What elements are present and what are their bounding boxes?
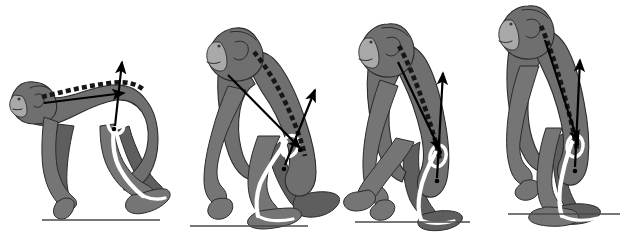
- panel-4-eye: [509, 22, 512, 25]
- panel-2-trunk-node: [298, 148, 302, 152]
- panel-3-trunk-node: [438, 150, 442, 154]
- panel-2-hip-joint-node: [282, 167, 287, 172]
- panel-1-hip-joint-node: [112, 127, 117, 132]
- panel-1-eye: [18, 98, 21, 101]
- panel-4-foot: [529, 207, 579, 226]
- posture-sequence-canvas: .bodyfill{ fill:#6f6f6f; stroke:#2b2b2b;…: [0, 0, 626, 237]
- panel-4-trunk-node: [575, 142, 579, 146]
- primate-posture-figure: Evolution of hominid posture: four-stage…: [0, 0, 626, 237]
- panel-2-eye: [217, 44, 220, 47]
- panel-4-hip-joint-node: [573, 169, 578, 174]
- panel-3-eye: [369, 40, 372, 43]
- panel-3-hip-joint-node: [435, 179, 440, 184]
